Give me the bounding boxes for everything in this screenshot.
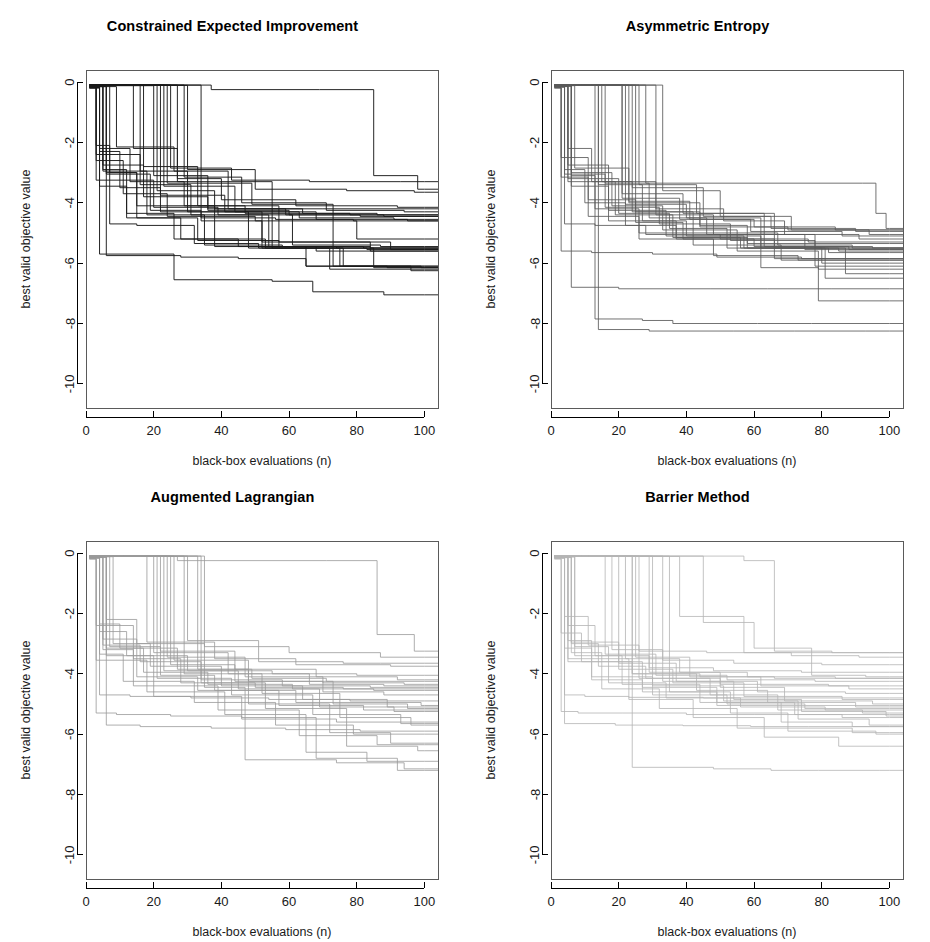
x-axis-label: black-box evaluations (n) (658, 925, 797, 939)
y-tick-label: -8 (63, 789, 78, 801)
x-axis-label: black-box evaluations (n) (193, 925, 332, 939)
x-tick-label: 20 (611, 894, 625, 909)
y-axis-label: best valid objective value (19, 640, 33, 779)
x-axis-label: black-box evaluations (n) (193, 454, 332, 468)
x-tick-label: 80 (350, 423, 364, 438)
y-tick-label: -8 (528, 318, 543, 330)
x-tick-label: 100 (414, 894, 436, 909)
x-tick-label: 80 (350, 894, 364, 909)
y-tick-label: -6 (528, 728, 543, 740)
y-tick-label: -8 (528, 789, 543, 801)
y-tick-label: -2 (63, 137, 78, 149)
x-tick-label: 60 (747, 423, 761, 438)
x-axis-label: black-box evaluations (n) (658, 454, 797, 468)
y-tick-label: 0 (528, 78, 543, 85)
plot-area: 0204060801000-2-4-6-8-10black-box evalua… (0, 471, 465, 942)
y-tick-label: -8 (63, 318, 78, 330)
y-tick-label: -4 (528, 668, 543, 680)
y-tick-label: -6 (528, 257, 543, 269)
y-tick-label: -6 (63, 257, 78, 269)
plot-area: 0204060801000-2-4-6-8-10black-box evalua… (465, 471, 930, 942)
y-tick-label: -10 (63, 845, 78, 864)
panel-augmented-lagrangian: Augmented Lagrangian 0204060801000-2-4-6… (0, 471, 465, 942)
y-tick-label: -4 (63, 668, 78, 680)
x-tick-label: 60 (282, 894, 296, 909)
panel-constrained-expected-improvement: Constrained Expected Improvement 0204060… (0, 0, 465, 471)
y-tick-label: -10 (63, 374, 78, 393)
x-tick-label: 80 (815, 894, 829, 909)
y-axis-label: best valid objective value (19, 169, 33, 308)
y-tick-label: -4 (528, 197, 543, 209)
y-tick-label: 0 (528, 549, 543, 556)
x-tick-label: 100 (879, 894, 901, 909)
y-tick-label: 0 (63, 78, 78, 85)
plot-area: 0204060801000-2-4-6-8-10black-box evalua… (465, 0, 930, 471)
figure-panel-grid: Constrained Expected Improvement 0204060… (0, 0, 930, 942)
x-tick-label: 100 (879, 423, 901, 438)
x-tick-label: 20 (146, 423, 160, 438)
y-tick-label: -2 (528, 137, 543, 149)
x-tick-label: 0 (547, 894, 554, 909)
x-tick-label: 0 (547, 423, 554, 438)
x-tick-label: 40 (214, 894, 228, 909)
y-tick-label: -4 (63, 197, 78, 209)
y-tick-label: 0 (63, 549, 78, 556)
x-tick-label: 20 (611, 423, 625, 438)
panel-barrier-method: Barrier Method 0204060801000-2-4-6-8-10b… (465, 471, 930, 942)
x-tick-label: 80 (815, 423, 829, 438)
y-tick-label: -10 (528, 374, 543, 393)
y-tick-label: -6 (63, 728, 78, 740)
x-tick-label: 40 (679, 894, 693, 909)
x-tick-label: 60 (282, 423, 296, 438)
x-tick-label: 40 (679, 423, 693, 438)
y-tick-label: -10 (528, 845, 543, 864)
x-tick-label: 100 (414, 423, 436, 438)
x-tick-label: 40 (214, 423, 228, 438)
y-tick-label: -2 (528, 608, 543, 620)
plot-area: 0204060801000-2-4-6-8-10black-box evalua… (0, 0, 465, 471)
y-axis-label: best valid objective value (484, 169, 498, 308)
y-axis-label: best valid objective value (484, 640, 498, 779)
x-tick-label: 60 (747, 894, 761, 909)
x-tick-label: 20 (146, 894, 160, 909)
panel-asymmetric-entropy: Asymmetric Entropy 0204060801000-2-4-6-8… (465, 0, 930, 471)
x-tick-label: 0 (82, 423, 89, 438)
y-tick-label: -2 (63, 608, 78, 620)
x-tick-label: 0 (82, 894, 89, 909)
